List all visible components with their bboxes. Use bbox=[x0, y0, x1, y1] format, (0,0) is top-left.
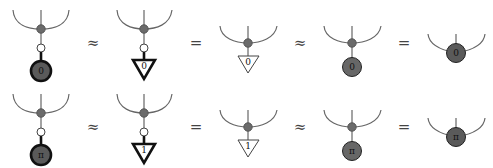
row-1: π ≈ 1 = 1 ≈ π bbox=[13, 94, 485, 165]
relation-approx: ≈ bbox=[87, 118, 100, 136]
row0-term5: 0 bbox=[428, 34, 485, 63]
row0-term2: 0 bbox=[117, 10, 172, 79]
white-node bbox=[140, 128, 148, 136]
row1-term1: π bbox=[13, 94, 69, 165]
row1-term3: 1 bbox=[220, 110, 277, 157]
node-label: π bbox=[453, 132, 459, 142]
relation-equals: = bbox=[190, 34, 203, 52]
effect-label: π bbox=[38, 150, 44, 160]
grey-spider-node bbox=[140, 25, 148, 33]
grey-spider-node bbox=[37, 109, 45, 117]
white-node bbox=[140, 44, 148, 52]
row1-term2: 1 bbox=[117, 94, 172, 163]
grey-spider-node bbox=[348, 123, 356, 131]
row-0: 0 ≈ 0 = 0 ≈ bbox=[13, 10, 485, 81]
grey-spider-node bbox=[244, 39, 252, 47]
triangle-label: 1 bbox=[245, 141, 251, 151]
relation-equals: = bbox=[398, 118, 411, 136]
relation-approx: ≈ bbox=[294, 34, 307, 52]
node-label: π bbox=[349, 146, 355, 156]
white-node bbox=[37, 44, 45, 52]
node-label: 0 bbox=[453, 48, 459, 58]
triangle-label: 0 bbox=[141, 61, 147, 71]
row0-term3: 0 bbox=[220, 26, 277, 73]
row0-term4: 0 bbox=[324, 26, 381, 77]
relation-equals: = bbox=[398, 34, 411, 52]
relation-approx: ≈ bbox=[294, 118, 307, 136]
row1-term4: π bbox=[324, 110, 381, 161]
relation-approx: ≈ bbox=[87, 34, 100, 52]
row1-term5: π bbox=[428, 118, 485, 147]
triangle-label: 1 bbox=[141, 145, 147, 155]
row0-term1: 0 bbox=[13, 10, 69, 81]
grey-spider-node bbox=[140, 109, 148, 117]
grey-spider-node bbox=[37, 25, 45, 33]
node-label: 0 bbox=[349, 62, 355, 72]
effect-label: 0 bbox=[38, 66, 44, 76]
relation-equals: = bbox=[190, 118, 203, 136]
zx-diagram: 0 ≈ 0 = 0 ≈ bbox=[0, 0, 493, 168]
grey-spider-node bbox=[244, 123, 252, 131]
grey-spider-node bbox=[348, 39, 356, 47]
triangle-label: 0 bbox=[245, 57, 251, 67]
white-node bbox=[37, 128, 45, 136]
